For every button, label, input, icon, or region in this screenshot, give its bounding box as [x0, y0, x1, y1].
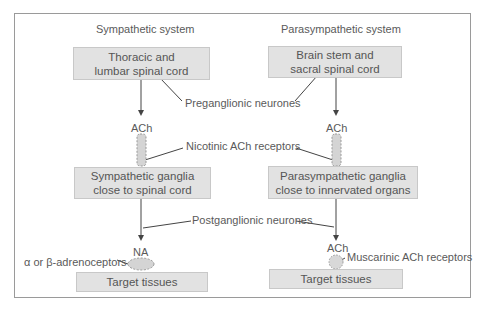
origin-line-1: Thoracic and	[108, 50, 174, 64]
nicotinic-receptor-right	[332, 134, 341, 166]
sympathetic-ganglia-box: Sympathetic ganglia close to spinal cord	[74, 167, 211, 199]
nicotinic-receptor-left	[137, 134, 146, 166]
ganglia-line-1: Parasympathetic ganglia	[280, 169, 406, 183]
sympathetic-origin-box: Thoracic and lumbar spinal cord	[73, 47, 210, 80]
parasympathetic-pre-transmitter: ACh	[326, 122, 347, 135]
sympathetic-title: Sympathetic system	[96, 23, 194, 36]
parasympathetic-ganglia-box: Parasympathetic ganglia close to innerva…	[268, 166, 418, 199]
parasympathetic-target-box: Target tissues	[269, 269, 403, 289]
muscarinic-receptor-shape	[329, 255, 343, 269]
origin-line-1: Brain stem and	[296, 48, 373, 62]
target-label: Target tissues	[107, 275, 178, 289]
postganglionic-label: Postganglionic neurones	[192, 214, 312, 227]
adrenoceptor-shape	[128, 258, 154, 270]
ganglia-line-2: close to innervated organs	[276, 183, 411, 197]
target-label: Target tissues	[301, 272, 372, 286]
sympathetic-post-transmitter: NA	[133, 246, 148, 259]
sympathetic-pre-transmitter: ACh	[131, 122, 152, 135]
ganglia-line-2: close to spinal cord	[93, 183, 191, 197]
parasympathetic-title: Parasympathetic system	[281, 23, 401, 36]
ganglia-line-1: Sympathetic ganglia	[91, 169, 195, 183]
sympathetic-target-box: Target tissues	[76, 272, 208, 292]
adrenoceptor-label: α or β-adrenoceptors	[24, 256, 127, 269]
parasympathetic-post-transmitter: ACh	[327, 242, 348, 255]
preganglionic-label: Preganglionic neurones	[185, 97, 301, 110]
muscarinic-label: Muscarinic ACh receptors	[347, 251, 472, 264]
origin-line-2: sacral spinal cord	[290, 62, 379, 76]
nicotinic-label: Nicotinic ACh receptors	[186, 140, 300, 153]
origin-line-2: lumbar spinal cord	[95, 64, 189, 78]
parasympathetic-origin-box: Brain stem and sacral spinal cord	[268, 46, 402, 78]
